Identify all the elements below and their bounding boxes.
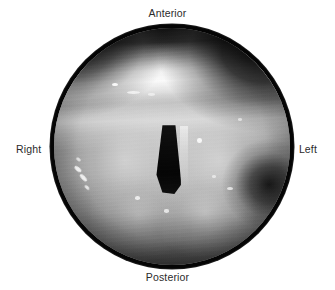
specular-highlight: [76, 157, 82, 162]
specular-highlight: [74, 165, 82, 173]
specular-highlight: [127, 91, 140, 94]
glottic-edge-highlight: [180, 126, 188, 188]
specular-highlight: [197, 138, 202, 143]
glottic-opening: [154, 125, 181, 194]
specular-highlight: [135, 196, 140, 200]
specular-highlight: [83, 184, 90, 190]
specular-highlight: [227, 187, 233, 190]
endoscope-circular-field: [54, 28, 290, 265]
specular-highlight: [238, 118, 242, 121]
specular-highlight: [164, 209, 170, 212]
specular-highlight: [112, 83, 119, 87]
laryngoscopy-figure: Anterior Right Left Posterior: [0, 0, 335, 290]
orientation-label-anterior: Anterior: [0, 7, 335, 19]
orientation-label-posterior: Posterior: [0, 271, 335, 283]
specular-highlight: [212, 175, 216, 178]
specular-highlight: [79, 173, 88, 182]
orientation-label-left: Left: [299, 143, 317, 155]
orientation-label-right: Right: [16, 143, 41, 155]
specular-highlight: [148, 93, 155, 96]
